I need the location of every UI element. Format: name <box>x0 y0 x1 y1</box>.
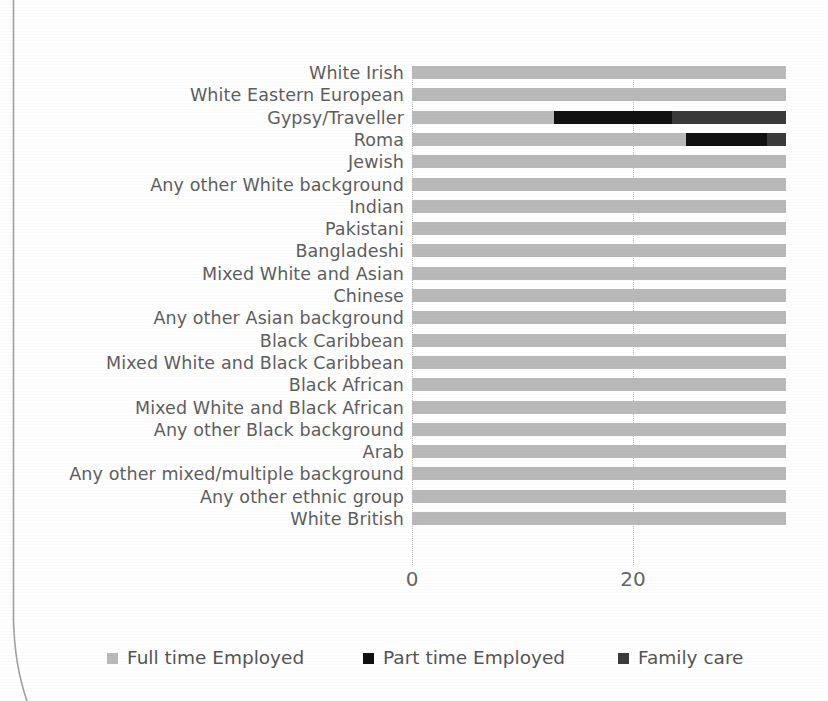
category-label: Roma <box>0 130 404 150</box>
category-label: Pakistani <box>0 219 404 239</box>
category-label: Indian <box>0 197 404 217</box>
legend-item[interactable]: Part time Employed <box>363 645 565 671</box>
bar-segment <box>412 445 786 458</box>
bar-segment <box>412 356 786 369</box>
category-label: Any other Asian background <box>0 308 404 328</box>
legend-swatch-icon <box>107 653 118 664</box>
bar-row <box>412 200 786 213</box>
category-label: Bangladeshi <box>0 241 404 261</box>
bar-row <box>412 356 786 369</box>
bar-row <box>412 244 786 257</box>
bar-row <box>412 512 786 525</box>
bar-segment <box>412 200 786 213</box>
legend-swatch-icon <box>363 653 374 664</box>
bar-segment <box>412 423 786 436</box>
category-label: White British <box>0 509 404 529</box>
category-label: Mixed White and Black African <box>0 398 404 418</box>
bar-row <box>412 423 786 436</box>
bar-segment <box>412 244 786 257</box>
bar-row <box>412 378 786 391</box>
x-tick-label: 0 <box>406 566 419 592</box>
legend-item[interactable]: Family care <box>618 645 744 671</box>
bar-segment <box>686 133 767 146</box>
bar-segment <box>412 378 786 391</box>
category-label: Chinese <box>0 286 404 306</box>
bar-row <box>412 155 786 168</box>
category-label: Jewish <box>0 152 404 172</box>
bar-segment <box>412 155 786 168</box>
bar-segment <box>412 490 786 503</box>
bar-segment <box>412 88 786 101</box>
bar-segment <box>412 222 786 235</box>
legend-label: Full time Employed <box>127 645 304 671</box>
category-label: Any other mixed/multiple background <box>0 464 404 484</box>
bar-row <box>412 311 786 324</box>
bar-row <box>412 401 786 414</box>
bar-segment <box>412 512 786 525</box>
bar-segment <box>554 111 672 124</box>
x-tick-label: 20 <box>620 566 645 592</box>
category-label: Mixed White and Black Caribbean <box>0 353 404 373</box>
bar-row <box>412 334 786 347</box>
category-label: Gypsy/Traveller <box>0 108 404 128</box>
chart-legend: Full time EmployedPart time EmployedFami… <box>0 645 828 679</box>
bar-segment <box>412 111 554 124</box>
bar-row <box>412 445 786 458</box>
category-label: Black Caribbean <box>0 331 404 351</box>
plot-area <box>412 66 786 536</box>
bar-segment <box>412 178 786 191</box>
bar-segment <box>412 334 786 347</box>
bar-row <box>412 289 786 302</box>
bar-segment <box>412 267 786 280</box>
bar-segment <box>412 401 786 414</box>
category-label: White Eastern European <box>0 85 404 105</box>
legend-label: Family care <box>638 645 744 671</box>
bar-segment <box>412 311 786 324</box>
bar-row <box>412 490 786 503</box>
bar-segment <box>767 133 786 146</box>
legend-swatch-icon <box>618 653 629 664</box>
bar-row <box>412 133 786 146</box>
category-axis-labels: White IrishWhite Eastern EuropeanGypsy/T… <box>0 66 404 536</box>
category-label: Any other White background <box>0 175 404 195</box>
category-label: Mixed White and Asian <box>0 264 404 284</box>
bar-segment <box>412 133 686 146</box>
bar-row <box>412 88 786 101</box>
bar-row <box>412 467 786 480</box>
bar-segment <box>412 66 786 79</box>
category-label: White Irish <box>0 63 404 83</box>
category-label: Any other Black background <box>0 420 404 440</box>
bar-segment <box>412 467 786 480</box>
bar-segment <box>672 111 786 124</box>
bar-segment <box>412 289 786 302</box>
category-label: Arab <box>0 442 404 462</box>
ethnicity-economic-activity-chart: White IrishWhite Eastern EuropeanGypsy/T… <box>0 0 828 701</box>
bar-row <box>412 111 786 124</box>
x-axis: 020 <box>0 566 828 600</box>
legend-label: Part time Employed <box>383 645 565 671</box>
bar-row <box>412 66 786 79</box>
legend-item[interactable]: Full time Employed <box>107 645 304 671</box>
category-label: Black African <box>0 375 404 395</box>
bar-row <box>412 267 786 280</box>
bar-row <box>412 178 786 191</box>
category-label: Any other ethnic group <box>0 487 404 507</box>
bar-row <box>412 222 786 235</box>
